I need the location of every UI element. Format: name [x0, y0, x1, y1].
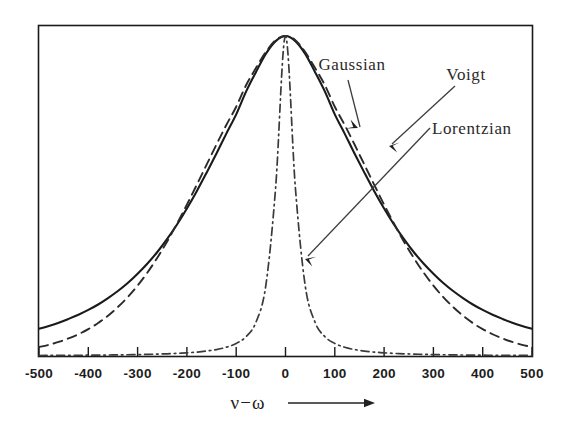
x-tick-label: -500 — [25, 366, 53, 381]
x-tick-label: 200 — [372, 366, 395, 381]
annotation-label-voigt: Voigt — [446, 65, 486, 84]
annotation-label-lorentzian: Lorentzian — [432, 119, 512, 138]
x-tick-label: -300 — [123, 366, 151, 381]
figure-canvas: -500-400-300-200-1000100200300400500 Gau… — [0, 0, 570, 431]
x-tick-label: -200 — [173, 366, 201, 381]
x-tick-label: -100 — [222, 366, 250, 381]
annotation-label-gaussian: Gaussian — [318, 55, 385, 74]
x-tick-label: 400 — [471, 366, 494, 381]
lineshape-comparison-chart: -500-400-300-200-1000100200300400500 Gau… — [0, 0, 570, 431]
x-tick-label: 100 — [323, 366, 346, 381]
x-tick-label: 500 — [520, 366, 543, 381]
x-tick-label: 300 — [422, 366, 445, 381]
x-axis-title: ν−ω — [231, 392, 266, 413]
x-tick-label: -400 — [74, 366, 102, 381]
x-tick-label: 0 — [282, 366, 290, 381]
